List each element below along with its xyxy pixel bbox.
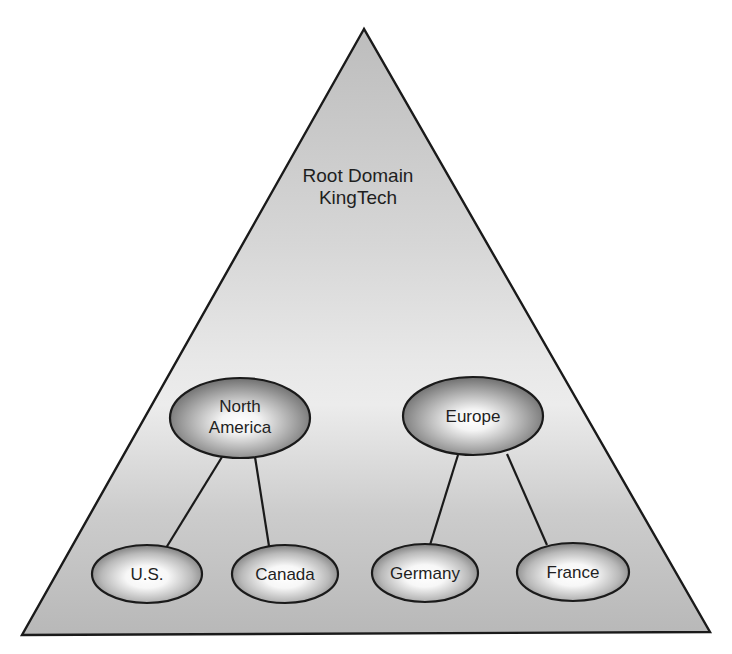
node-canada-label: Canada [255, 565, 315, 584]
node-north-america-label-line2: America [209, 418, 272, 437]
node-north-america-label-line1: North [219, 397, 261, 416]
node-germany: Germany [372, 544, 478, 602]
node-north-america: North America [170, 378, 310, 458]
node-europe: Europe [403, 377, 543, 455]
node-germany-label: Germany [390, 564, 460, 583]
root-domain-name: KingTech [319, 187, 397, 208]
node-france-label: France [547, 563, 600, 582]
node-canada: Canada [232, 545, 338, 603]
node-us-label: U.S. [130, 565, 163, 584]
root-domain-triangle [22, 29, 710, 635]
node-us: U.S. [92, 545, 202, 603]
node-france: France [517, 543, 629, 601]
domain-tree-diagram: Root Domain KingTech North America Europ… [0, 0, 732, 654]
root-domain-label: Root Domain [303, 165, 414, 186]
node-europe-label: Europe [446, 407, 501, 426]
